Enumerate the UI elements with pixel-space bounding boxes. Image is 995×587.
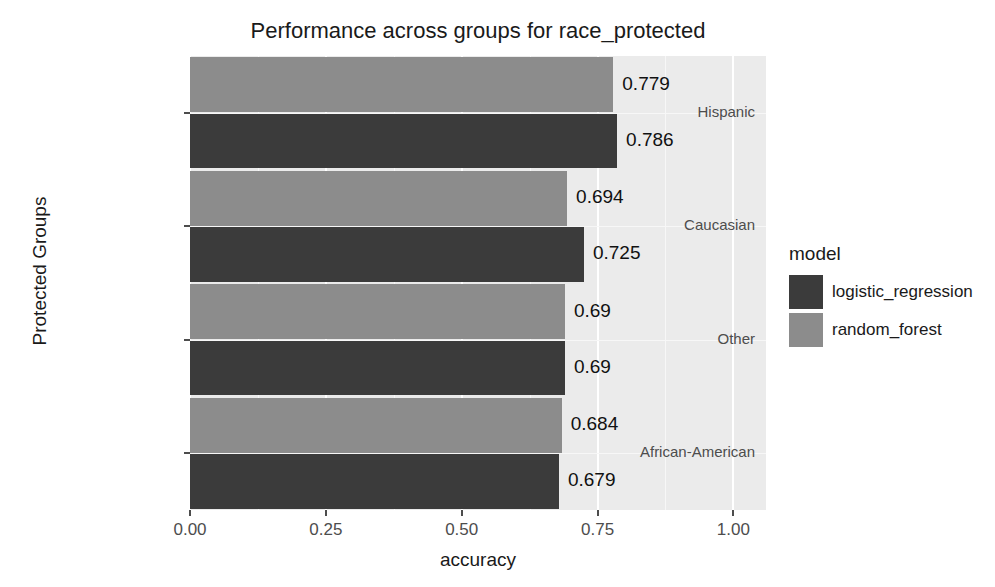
bar-value-label: 0.725 — [593, 242, 641, 264]
y-tick-mark — [184, 225, 190, 227]
bar-value-label: 0.779 — [622, 73, 670, 95]
legend-item[interactable]: logistic_regression — [789, 275, 973, 309]
bar — [190, 284, 565, 339]
x-tick-label: 0.25 — [286, 520, 366, 540]
plot-panel: 0.7790.7860.6940.7250.690.690.6840.679 — [190, 56, 766, 510]
legend-title: model — [789, 243, 973, 265]
y-tick-mark — [184, 112, 190, 114]
x-tick-mark — [325, 510, 327, 516]
chart-container: Performance across groups for race_prote… — [0, 0, 995, 587]
y-tick-label: African-American — [555, 443, 755, 460]
x-tick-label: 0.75 — [558, 520, 638, 540]
y-axis-title: Protected Groups — [29, 171, 51, 371]
legend-key-swatch — [789, 275, 823, 309]
x-tick-mark — [597, 510, 599, 516]
bar-value-label: 0.69 — [574, 356, 611, 378]
x-tick-label: 0.00 — [150, 520, 230, 540]
legend-items: logistic_regressionrandom_forest — [789, 275, 973, 347]
bar — [190, 57, 613, 112]
x-tick-label: 0.50 — [422, 520, 502, 540]
y-tick-mark — [184, 339, 190, 341]
bar — [190, 454, 559, 509]
gridline-vertical-major — [732, 56, 734, 510]
bar — [190, 113, 617, 168]
bar-value-label: 0.786 — [626, 129, 674, 151]
x-axis-title: accuracy — [190, 549, 766, 571]
legend: model logistic_regressionrandom_forest — [789, 243, 973, 351]
x-tick-mark — [189, 510, 191, 516]
bar — [190, 227, 584, 282]
legend-key-swatch — [789, 313, 823, 347]
x-tick-mark — [732, 510, 734, 516]
legend-item[interactable]: random_forest — [789, 313, 973, 347]
gridline-vertical-minor — [665, 56, 666, 510]
bar — [190, 171, 567, 226]
legend-item-label: logistic_regression — [832, 282, 973, 302]
x-tick-mark — [461, 510, 463, 516]
bar-value-label: 0.694 — [576, 186, 624, 208]
y-tick-label: Other — [555, 330, 755, 347]
x-tick-label: 1.00 — [693, 520, 773, 540]
legend-item-label: random_forest — [832, 320, 942, 340]
bar-value-label: 0.684 — [571, 413, 619, 435]
bar-value-label: 0.679 — [568, 469, 616, 491]
chart-title: Performance across groups for race_prote… — [190, 18, 766, 44]
y-tick-label: Caucasian — [555, 216, 755, 233]
bar-value-label: 0.69 — [574, 300, 611, 322]
y-tick-label: Hispanic — [555, 103, 755, 120]
bar — [190, 398, 562, 453]
bar — [190, 340, 565, 395]
y-tick-mark — [184, 452, 190, 454]
